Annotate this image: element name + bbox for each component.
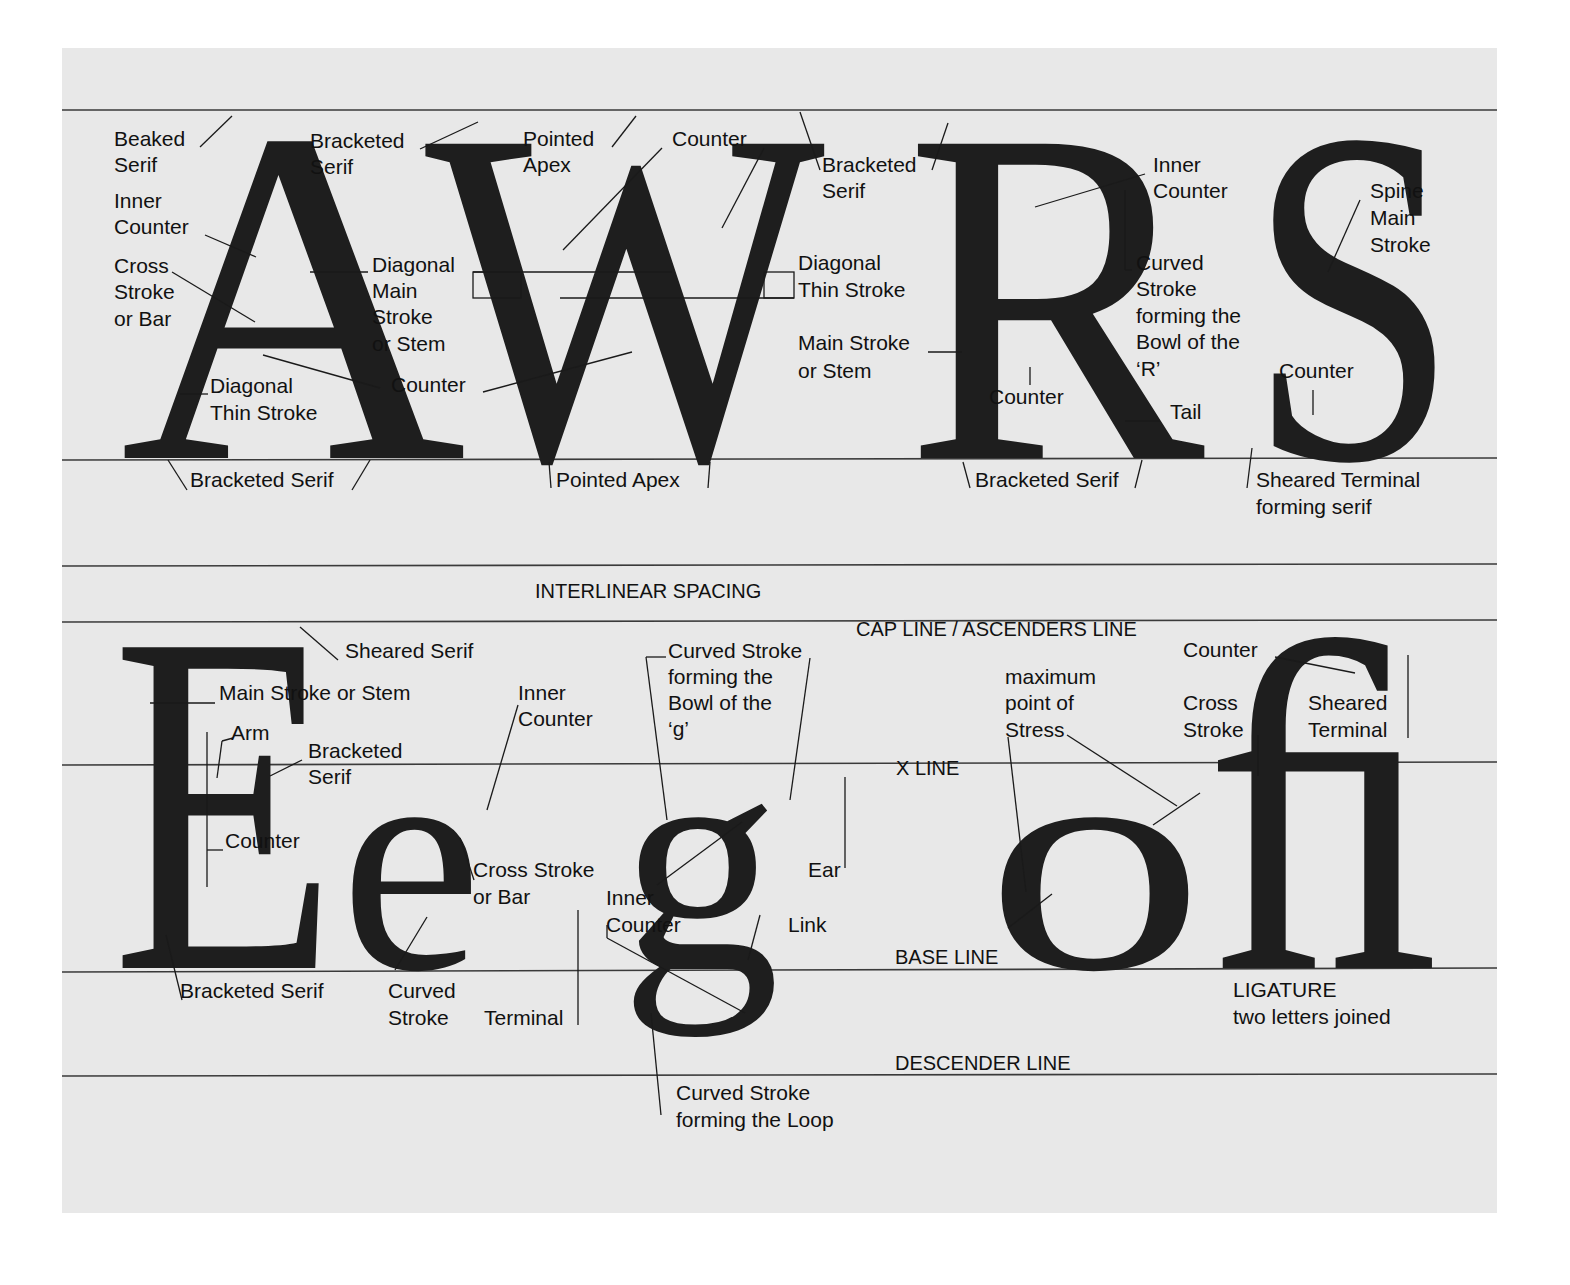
- label-g-inner-counter-2: Counter: [606, 913, 681, 936]
- label-g-bowl-1: Curved Stroke: [668, 639, 802, 662]
- label-E-bracketed-serif-bottom: Bracketed Serif: [180, 979, 324, 1002]
- label-W-bracketed-serif-2: Serif: [822, 179, 865, 202]
- label-W-diagonal-thin-2: Thin Stroke: [798, 278, 905, 301]
- letterform-diagram: A W R S E e g o ﬁ: [0, 0, 1570, 1285]
- letter-g: g: [620, 683, 780, 1038]
- label-diagonal-main-3: Stroke: [372, 305, 433, 328]
- label-A-inner-counter-1: Inner: [114, 189, 162, 212]
- label-R-curved-5: ‘R’: [1136, 357, 1161, 380]
- label-R-curved-1: Curved: [1136, 251, 1204, 274]
- label-E-sheared-serif: Sheared Serif: [345, 639, 474, 662]
- caption-base-line: BASE LINE: [895, 946, 998, 968]
- label-E-bracketed-serif-1: Bracketed: [308, 739, 403, 762]
- label-e-inner-counter-1: Inner: [518, 681, 566, 704]
- label-S-sheared-terminal-1: Sheared Terminal: [1256, 468, 1420, 491]
- label-e-terminal: Terminal: [484, 1006, 563, 1029]
- label-S-counter: Counter: [1279, 359, 1354, 382]
- label-S-spine-2: Main: [1370, 206, 1416, 229]
- caption-interlinear-spacing: INTERLINEAR SPACING: [535, 580, 761, 602]
- label-A-bracketed-serif-bottom: Bracketed Serif: [190, 468, 334, 491]
- label-ligature-1: LIGATURE: [1233, 978, 1336, 1001]
- label-o-stress-3: Stress: [1005, 718, 1065, 741]
- label-W-bracketed-serif-1: Bracketed: [822, 153, 917, 176]
- label-R-main-stroke-1: Main Stroke: [798, 331, 910, 354]
- label-A-diagonal-thin-1: Diagonal: [210, 374, 293, 397]
- label-pointed-apex-bottom: Pointed Apex: [556, 468, 680, 491]
- label-fi-cross-stroke-1: Cross: [1183, 691, 1238, 714]
- label-R-curved-2: Stroke: [1136, 277, 1197, 300]
- label-o-stress-2: point of: [1005, 691, 1074, 714]
- label-e-curved-stroke-1: Curved: [388, 979, 456, 1002]
- label-beaked-serif-1: Beaked: [114, 127, 185, 150]
- label-E-main-stroke: Main Stroke or Stem: [219, 681, 410, 704]
- label-R-inner-counter-1: Inner: [1153, 153, 1201, 176]
- label-g-loop-1: Curved Stroke: [676, 1081, 810, 1104]
- label-R-bracketed-serif: Bracketed Serif: [975, 468, 1119, 491]
- label-g-loop-2: forming the Loop: [676, 1108, 834, 1131]
- label-S-sheared-terminal-2: forming serif: [1256, 495, 1372, 518]
- label-R-counter: Counter: [989, 385, 1064, 408]
- label-g-ear: Ear: [808, 858, 841, 881]
- label-e-cross-stroke-1: Cross Stroke: [473, 858, 594, 881]
- label-e-cross-stroke-2: or Bar: [473, 885, 530, 908]
- label-diagonal-main-2: Main: [372, 279, 418, 302]
- label-o-stress-1: maximum: [1005, 665, 1096, 688]
- label-g-bowl-4: ‘g’: [668, 717, 689, 740]
- descender-line: [62, 1074, 1497, 1076]
- label-E-counter: Counter: [225, 829, 300, 852]
- caption-x-line: X LINE: [896, 757, 959, 779]
- label-R-inner-counter-2: Counter: [1153, 179, 1228, 202]
- label-A-counter: Counter: [391, 373, 466, 396]
- label-R-tail: Tail: [1170, 400, 1202, 423]
- label-g-link: Link: [788, 913, 827, 936]
- label-A-diagonal-thin-2: Thin Stroke: [210, 401, 317, 424]
- label-A-inner-counter-2: Counter: [114, 215, 189, 238]
- label-W-diagonal-thin-1: Diagonal: [798, 251, 881, 274]
- label-pointed-apex-top-1: Pointed: [523, 127, 594, 150]
- label-E-arm: Arm: [231, 721, 270, 744]
- label-R-curved-3: forming the: [1136, 304, 1241, 327]
- label-ligature-2: two letters joined: [1233, 1005, 1391, 1028]
- label-S-spine-1: Spine: [1370, 179, 1424, 202]
- label-beaked-serif-2: Serif: [114, 153, 157, 176]
- label-diagonal-main-1: Diagonal: [372, 253, 455, 276]
- label-S-spine-3: Stroke: [1370, 233, 1431, 256]
- label-e-curved-stroke-2: Stroke: [388, 1006, 449, 1029]
- label-R-curved-4: Bowl of the: [1136, 330, 1240, 353]
- label-fi-sheared-terminal-2: Terminal: [1308, 718, 1387, 741]
- label-cross-stroke-1: Cross: [114, 254, 169, 277]
- label-pointed-apex-top-2: Apex: [523, 153, 571, 176]
- label-R-main-stroke-2: or Stem: [798, 359, 872, 382]
- label-g-bowl-2: forming the: [668, 665, 773, 688]
- label-bracketed-serif-top-2: Serif: [310, 155, 353, 178]
- label-cross-stroke-3: or Bar: [114, 307, 171, 330]
- label-diagonal-main-4: or Stem: [372, 332, 446, 355]
- caption-descender-line: DESCENDER LINE: [895, 1052, 1071, 1074]
- caption-cap-line: CAP LINE / ASCENDERS LINE: [856, 618, 1137, 640]
- label-fi-cross-stroke-2: Stroke: [1183, 718, 1244, 741]
- label-cross-stroke-2: Stroke: [114, 280, 175, 303]
- label-E-bracketed-serif-2: Serif: [308, 765, 351, 788]
- label-fi-sheared-terminal-1: Sheared: [1308, 691, 1387, 714]
- label-e-inner-counter-2: Counter: [518, 707, 593, 730]
- label-bracketed-serif-top-1: Bracketed: [310, 129, 405, 152]
- label-W-counter: Counter: [672, 127, 747, 150]
- label-fi-counter: Counter: [1183, 638, 1258, 661]
- label-g-inner-counter-1: Inner: [606, 886, 654, 909]
- label-g-bowl-3: Bowl of the: [668, 691, 772, 714]
